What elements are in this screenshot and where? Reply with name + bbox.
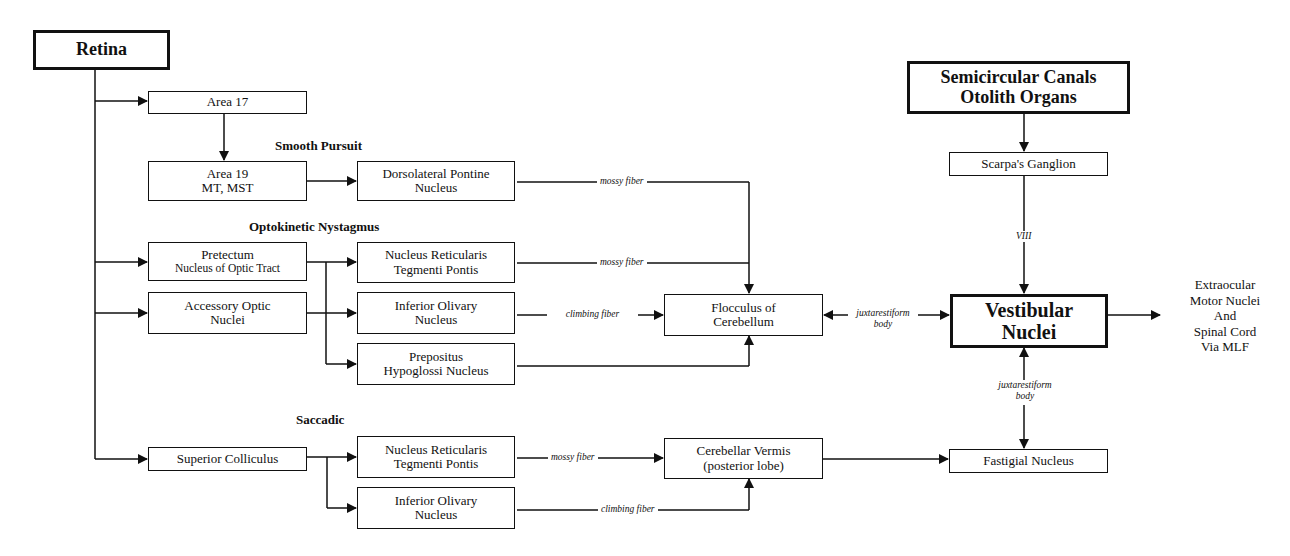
node-pretectum: Pretectum Nucleus of Optic Tract — [148, 242, 307, 281]
edge-label-climbing-fiber-1: climbing fiber — [547, 309, 638, 320]
output-line5: Via MLF — [1165, 339, 1285, 355]
node-pretectum-line2: Nucleus of Optic Tract — [175, 262, 280, 275]
output-line1: Extraocular — [1165, 277, 1285, 293]
node-semicircular-canals: Semicircular Canals Otolith Organs — [907, 61, 1130, 114]
node-retina-label: Retina — [76, 40, 127, 60]
node-cerebellar-vermis: Cerebellar Vermis (posterior lobe) — [664, 438, 823, 479]
node-vestibular-nuclei: Vestibular Nuclei — [950, 294, 1108, 348]
output-targets: Extraocular Motor Nuclei And Spinal Cord… — [1165, 277, 1285, 355]
edge-label-viii: VIII — [1013, 231, 1034, 242]
node-nrtp-sacc-line1: Nucleus Reticularis — [385, 443, 487, 457]
node-nrtp-sacc-line2: Tegmenti Pontis — [394, 457, 479, 471]
node-area-19-line1: Area 19 — [207, 167, 249, 181]
node-nrtp-okn-line2: Tegmenti Pontis — [394, 263, 479, 277]
node-aon-line2: Nuclei — [210, 313, 245, 327]
node-area-17-label: Area 17 — [207, 95, 249, 109]
node-area-19: Area 19 MT, MST — [148, 161, 307, 201]
node-area-17: Area 17 — [148, 91, 307, 114]
node-dlpn-line1: Dorsolateral Pontine — [382, 167, 489, 181]
juxta1-line2: body — [851, 319, 915, 330]
section-optokinetic-nystagmus: Optokinetic Nystagmus — [249, 219, 379, 235]
node-prepositus-hypoglossi: Prepositus Hypoglossi Nucleus — [357, 343, 515, 385]
node-nrtp-okn: Nucleus Reticularis Tegmenti Pontis — [357, 242, 515, 283]
node-accessory-optic-nuclei: Accessory Optic Nuclei — [148, 292, 307, 334]
output-line3: And — [1165, 308, 1285, 324]
node-flocculus-line1: Flocculus of — [711, 301, 776, 315]
edge-label-mossy-fiber-2: mossy fiber — [597, 257, 647, 268]
node-area-19-line2: MT, MST — [202, 181, 254, 195]
edge-label-mossy-fiber-1: mossy fiber — [597, 176, 647, 187]
edge-label-juxtarestiform-body-1: juxtarestiform body — [848, 308, 918, 330]
node-vermis-line1: Cerebellar Vermis — [697, 444, 791, 458]
node-fastigial-label: Fastigial Nucleus — [983, 454, 1074, 468]
node-vestibular-line2: Nuclei — [1002, 321, 1056, 343]
edge-label-mossy-fiber-3: mossy fiber — [548, 452, 598, 463]
node-vermis-line2: (posterior lobe) — [703, 459, 784, 473]
node-retina: Retina — [33, 30, 170, 70]
node-prepositus-line1: Prepositus — [409, 350, 463, 364]
node-aon-line1: Accessory Optic — [184, 299, 270, 313]
node-io-sacc-line2: Nucleus — [415, 508, 458, 522]
node-io-sacc-line1: Inferior Olivary — [395, 494, 478, 508]
node-io-okn-line2: Nucleus — [415, 313, 458, 327]
node-sc-label: Superior Colliculus — [177, 452, 278, 466]
node-inferior-olivary-saccadic: Inferior Olivary Nucleus — [357, 487, 515, 529]
node-vestibular-line1: Vestibular — [985, 299, 1073, 321]
node-flocculus-line2: Cerebellum — [713, 315, 774, 329]
edge-label-climbing-fiber-2: climbing fiber — [598, 504, 658, 515]
node-io-okn-line1: Inferior Olivary — [395, 299, 478, 313]
output-line4: Spinal Cord — [1165, 324, 1285, 340]
node-inferior-olivary-okn: Inferior Olivary Nucleus — [357, 292, 515, 334]
node-prepositus-line2: Hypoglossi Nucleus — [383, 364, 488, 378]
node-dorsolateral-pontine-nucleus: Dorsolateral Pontine Nucleus — [357, 161, 515, 201]
node-nrtp-okn-line1: Nucleus Reticularis — [385, 248, 487, 262]
node-nrtp-saccadic: Nucleus Reticularis Tegmenti Pontis — [357, 436, 515, 478]
node-canals-line2: Otolith Organs — [960, 88, 1077, 108]
node-fastigial-nucleus: Fastigial Nucleus — [949, 449, 1108, 473]
juxta2-line2: body — [993, 391, 1057, 402]
node-scarpas-ganglion: Scarpa's Ganglion — [949, 152, 1108, 176]
node-canals-line1: Semicircular Canals — [941, 68, 1097, 88]
node-superior-colliculus: Superior Colliculus — [148, 447, 307, 471]
section-smooth-pursuit: Smooth Pursuit — [275, 138, 362, 154]
node-scarpa-label: Scarpa's Ganglion — [981, 157, 1075, 171]
edge-label-juxtarestiform-body-2: juxtarestiform body — [990, 380, 1060, 402]
node-pretectum-line1: Pretectum — [201, 248, 254, 262]
node-dlpn-line2: Nucleus — [415, 181, 458, 195]
output-line2: Motor Nuclei — [1165, 293, 1285, 309]
section-saccadic: Saccadic — [296, 412, 344, 428]
node-flocculus: Flocculus of Cerebellum — [664, 294, 823, 336]
juxta1-line1: juxtarestiform — [851, 308, 915, 319]
juxta2-line1: juxtarestiform — [993, 380, 1057, 391]
